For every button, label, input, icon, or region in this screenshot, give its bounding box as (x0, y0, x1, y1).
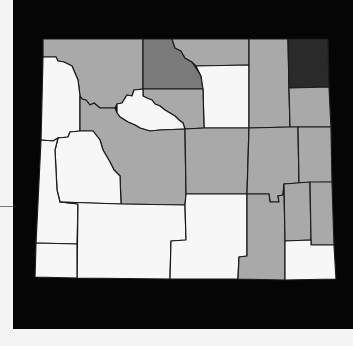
county-goshen[interactable] (310, 182, 334, 245)
county-campbell[interactable] (249, 39, 290, 128)
county-platte[interactable] (284, 182, 311, 241)
county-niobrara[interactable] (298, 127, 332, 183)
wyoming-county-map (0, 0, 353, 346)
county-uinta[interactable] (35, 243, 77, 278)
county-laramie[interactable] (285, 240, 336, 280)
county-teton[interactable] (41, 57, 80, 141)
county-weston[interactable] (289, 87, 331, 127)
county-sweetwater[interactable] (60, 202, 186, 279)
county-crook[interactable] (288, 39, 329, 88)
county-natrona[interactable] (185, 128, 249, 194)
